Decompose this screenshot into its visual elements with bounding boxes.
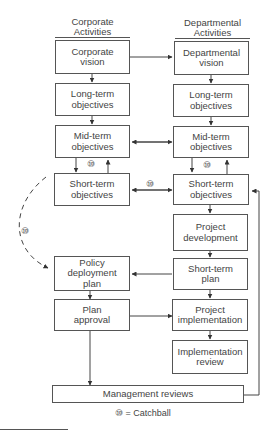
- corporate-short-term-box: Short-term objectives: [54, 173, 130, 206]
- project-implementation-label: Project implementation: [178, 305, 242, 326]
- corporate-vision-box: Corporate vision: [55, 40, 130, 74]
- departmental-mid-term-label: Mid-term objectives: [190, 132, 232, 153]
- project-implementation-box: Project implementation: [172, 299, 248, 331]
- catchball-legend-icon: ⑩: [115, 408, 123, 418]
- implementation-review-box: Implementation review: [172, 340, 248, 374]
- policy-deployment-plan-box: Policy deployment plan: [54, 256, 130, 291]
- short-term-plan-box: Short-term plan: [173, 258, 248, 290]
- departmental-long-term-label: Long-term objectives: [189, 90, 232, 111]
- corporate-long-term-box: Long-term objectives: [55, 83, 130, 116]
- departmental-vision-label: Departmental vision: [183, 48, 240, 69]
- implementation-review-label: Implementation review: [178, 347, 243, 368]
- plan-approval-label: Plan approval: [74, 305, 110, 326]
- departmental-short-term-box: Short-term objectives: [173, 174, 249, 205]
- plan-approval-box: Plan approval: [54, 299, 130, 331]
- departmental-long-term-box: Long-term objectives: [173, 84, 249, 117]
- catchball-icon: ⑩: [146, 179, 154, 189]
- catchball-icon: ⑩: [203, 160, 211, 170]
- catchball-icon: ⑩: [21, 226, 29, 236]
- departmental-short-term-label: Short-term objectives: [189, 179, 234, 200]
- policy-deployment-plan-label: Policy deployment plan: [67, 258, 116, 290]
- corporate-mid-term-label: Mid-term objectives: [71, 131, 113, 152]
- catchball-icon: ⑩: [87, 159, 95, 169]
- corporate-mid-term-box: Mid-term objectives: [55, 125, 130, 158]
- project-development-box: Project development: [173, 214, 248, 251]
- management-reviews-box: Management reviews: [52, 385, 244, 403]
- footnote-divider: [0, 429, 68, 430]
- project-development-label: Project development: [183, 222, 237, 243]
- departmental-vision-box: Departmental vision: [174, 41, 249, 75]
- short-term-plan-label: Short-term plan: [188, 264, 233, 285]
- corporate-short-term-label: Short-term objectives: [70, 179, 115, 200]
- corporate-vision-label: Corporate vision: [71, 47, 113, 68]
- management-reviews-label: Management reviews: [103, 389, 193, 400]
- departmental-mid-term-box: Mid-term objectives: [173, 126, 249, 158]
- catchball-legend-text: = Catchball: [126, 408, 171, 418]
- corporate-long-term-label: Long-term objectives: [71, 89, 114, 110]
- catchball-legend: ⑩ = Catchball: [115, 408, 171, 418]
